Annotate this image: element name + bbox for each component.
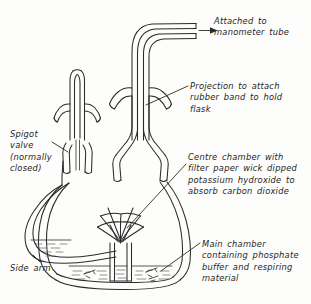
right-neck-collar-right [165,155,168,180]
left-projection-right-tip [97,118,101,122]
label-centre-chamber: Centre chamber with filter paper wick di… [188,152,310,198]
left-neck-top-cap [73,70,82,71]
leader-lines [33,86,200,271]
left-neck-outer-left [70,71,73,140]
right-neck-collar-left-in [120,157,123,180]
label-main-chamber: Main chamber containing phosphate buffer… [202,239,310,285]
centre-chamber-liquid-hatch [116,270,126,278]
flask-right-flank-outer [167,182,191,280]
left-projection-left-tip [54,118,58,122]
right-collar-foot-right [160,180,167,182]
spigot-foot-right [85,172,92,174]
flask-left-flank-inner [46,183,69,274]
right-neck-collar-left [113,155,116,180]
main-chamber-contents [69,266,172,281]
right-neck-outer-right [149,96,165,155]
flask-right-flank-inner [160,182,183,277]
right-neck-group [110,88,172,182]
bent-tube-group [132,24,196,141]
label-projection-rubber-band: Projection to attach rubber band to hold… [190,81,306,115]
projection-right-tip [167,104,172,109]
spigot-stopper-right [89,143,92,172]
left-projection-left-inner [58,111,71,122]
projection-left-tip [110,104,115,109]
centre-chamber-group [98,208,144,281]
left-neck-inner-right [78,75,81,139]
filter-paper-wick [98,208,144,243]
label-spigot-valve: Spigot valve (normally closed) [10,129,68,175]
bent-tube-outer-wall-2 [138,29,197,141]
spigot-stopper-right-in [83,145,86,172]
right-neck-collar-right-in [159,157,162,180]
spigot-stopper-left-in [69,145,72,172]
projection-left-inner [115,96,133,109]
right-collar-foot-left [114,180,121,182]
leader-centre-chamber [127,164,186,228]
label-attached-to-manometer-tube: Attached to manometer tube [214,16,289,39]
left-neck-inner-left [75,75,78,139]
right-neck-outer-left [116,96,132,155]
leader-projection [146,86,188,105]
label-side-arm: Side arm [10,263,51,274]
bent-tube-inner-wall-2 [149,39,196,141]
bent-tube-outer-wall [132,24,196,141]
bent-tube-inner-wall [144,34,197,141]
right-neck-inner-right [144,100,159,157]
left-neck-outer-right [82,71,85,140]
diagram-canvas: Attached to manometer tube Projection to… [0,0,311,304]
left-projection-right-inner [85,111,98,122]
right-neck-inner-left [123,100,138,157]
